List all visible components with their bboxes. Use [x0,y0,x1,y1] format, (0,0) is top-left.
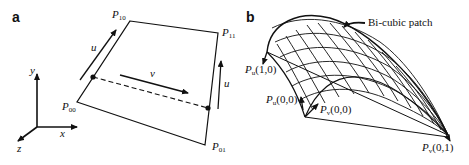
figure: a y x z P10 P11 P00 P01 u u v b Bi-cubic… [0,0,469,165]
label-pu-0-0: Pu(0,0) [266,94,297,107]
label-pv-0-0: Pv(0,0) [320,104,351,117]
panel-a-graphics [18,21,221,145]
u-arrow-left [80,30,116,80]
corner-label-p11: P11 [222,27,235,40]
label-pv-0-1: Pv(0,1) [422,142,453,155]
axis-label-z: z [17,143,21,154]
patch-edge [305,117,448,137]
axis-label-x: x [60,128,65,139]
corner-label-p10: P10 [112,9,126,22]
panel-b-graphics [263,16,450,141]
axis-label-y: y [30,65,35,76]
panel-label-a: a [12,10,20,24]
grid-u-curves [277,23,441,130]
arrow-label-v: v [150,68,155,79]
point-marker [205,105,210,110]
callout-bicubic-patch: Bi-cubic patch [368,17,432,28]
callout-arrow [344,23,365,27]
arrow-label-u-left: u [91,42,97,53]
u-arrow-right [218,61,221,109]
dashed-iso-line [93,77,208,108]
point-marker [90,74,95,79]
panel-label-b: b [246,10,255,24]
label-pu-1-0: Pu(1,0) [245,64,276,77]
pv00-arrow [305,104,318,117]
arrow-label-u-right: u [224,78,230,89]
corner-label-p00: P00 [62,101,76,114]
patch-boundary [267,52,305,117]
corner-label-p01: P01 [212,141,226,154]
pv01-arrow [446,134,450,141]
